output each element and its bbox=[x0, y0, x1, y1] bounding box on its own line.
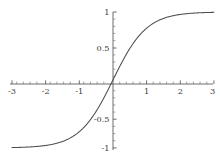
y-tick-label-pos05: 0.5 bbox=[96, 43, 109, 53]
axes-group bbox=[10, 12, 213, 150]
y-axis-tick-labels: 1 0.5 -0.5 -1 bbox=[94, 7, 110, 153]
y-tick-label-neg05: -0.5 bbox=[94, 114, 110, 124]
x-tick-label-pos2: 2 bbox=[178, 86, 183, 96]
x-tick-label-pos1: 1 bbox=[144, 86, 149, 96]
x-tick-label-neg2: -2 bbox=[42, 86, 50, 96]
y-axis-major-ticks bbox=[113, 12, 117, 148]
x-tick-label-neg1: -1 bbox=[75, 86, 83, 96]
y-tick-label-pos1: 1 bbox=[104, 7, 109, 17]
y-tick-label-neg1: -1 bbox=[102, 143, 110, 153]
plot-canvas: -3 -2 -1 1 2 3 1 0.5 -0.5 -1 bbox=[0, 0, 220, 154]
x-tick-label-pos3: 3 bbox=[210, 86, 215, 96]
tanh-plot-figure: -3 -2 -1 1 2 3 1 0.5 -0.5 -1 bbox=[0, 0, 220, 154]
x-axis-tick-labels: -3 -2 -1 1 2 3 bbox=[8, 86, 215, 96]
x-tick-label-neg3: -3 bbox=[8, 86, 16, 96]
